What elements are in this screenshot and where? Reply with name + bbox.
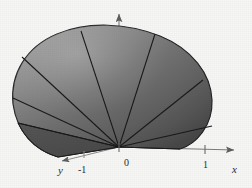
y-tick-label-minus1: -1: [78, 164, 86, 175]
x-tick-label-1: 1: [203, 159, 208, 170]
y-axis-label: y: [58, 164, 63, 176]
surface-group: [13, 25, 212, 157]
origin-label: 0: [124, 157, 129, 168]
x-axis-label: x: [232, 163, 237, 175]
figure-container: y -1 0 1 x: [0, 0, 252, 188]
